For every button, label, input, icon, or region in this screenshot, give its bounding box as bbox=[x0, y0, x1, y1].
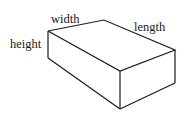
box-diagram: width length height bbox=[0, 0, 184, 124]
bottom-right-edge bbox=[120, 83, 175, 109]
width-label: width bbox=[51, 12, 80, 26]
height-label: height bbox=[10, 37, 42, 51]
length-label: length bbox=[134, 20, 166, 34]
